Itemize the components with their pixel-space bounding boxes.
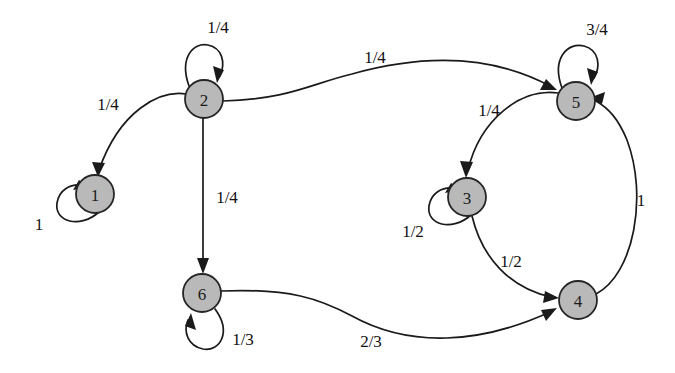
edge-label-5-to-5: 3/4 xyxy=(586,20,608,39)
edge-5-to-3 xyxy=(460,92,558,178)
edge-2-to-5-arrowhead xyxy=(540,79,557,90)
edge-2-to-5-path xyxy=(223,61,550,101)
edge-label-2-to-6: 1/4 xyxy=(216,188,238,207)
edge-label-6-to-4: 2/3 xyxy=(360,332,382,351)
node-6[interactable]: 6 xyxy=(183,274,221,312)
edge-6-to-4 xyxy=(221,291,557,339)
edge-5-to-3-arrowhead xyxy=(460,161,473,178)
node-2[interactable]: 2 xyxy=(185,80,223,118)
node-1-label: 1 xyxy=(91,186,100,205)
edges-layer xyxy=(92,61,637,338)
node-4-label: 4 xyxy=(574,292,583,311)
edge-label-3-to-4: 1/2 xyxy=(500,252,522,271)
node-4[interactable]: 4 xyxy=(559,281,597,319)
node-3[interactable]: 3 xyxy=(448,178,486,216)
edge-3-to-4-arrowhead xyxy=(543,291,559,303)
node-6-label: 6 xyxy=(198,285,207,304)
edge-4-to-5 xyxy=(589,92,637,294)
edge-label-1-to-1: 1 xyxy=(35,215,44,234)
edge-label-4-to-5: 1 xyxy=(637,191,646,210)
edge-2-to-6 xyxy=(197,118,209,274)
edge-label-3-to-3: 1/2 xyxy=(402,222,424,241)
edge-label-2-to-1: 1/4 xyxy=(97,95,119,114)
node-5[interactable]: 5 xyxy=(557,82,595,120)
edge-2-to-6-arrowhead xyxy=(197,258,209,274)
edge-label-2-to-2: 1/4 xyxy=(207,18,229,37)
state-diagram-figure: 1 2 3 4 5 6 xyxy=(0,0,675,373)
self-loop-6-path xyxy=(186,309,223,349)
self-loop-6 xyxy=(185,309,223,349)
node-2-label: 2 xyxy=(200,91,209,110)
edge-label-6-to-6: 1/3 xyxy=(232,330,254,349)
node-1[interactable]: 1 xyxy=(76,175,114,213)
nodes-layer: 1 2 3 4 5 6 xyxy=(76,80,597,319)
node-5-label: 5 xyxy=(572,93,581,112)
edge-6-to-4-path xyxy=(221,291,550,339)
edge-labels-layer: 1 1/4 1/4 1/4 1/4 3/4 1/4 1/2 1/2 1 1/3 … xyxy=(35,18,646,351)
graph-canvas: 1 2 3 4 5 6 xyxy=(0,0,675,373)
edge-2-to-5 xyxy=(223,61,557,101)
edge-4-to-5-path xyxy=(596,101,637,294)
edge-label-5-to-3: 1/4 xyxy=(478,101,500,120)
edge-6-to-4-arrowhead xyxy=(541,308,557,321)
edge-label-2-to-5: 1/4 xyxy=(364,48,386,67)
node-3-label: 3 xyxy=(463,189,472,208)
